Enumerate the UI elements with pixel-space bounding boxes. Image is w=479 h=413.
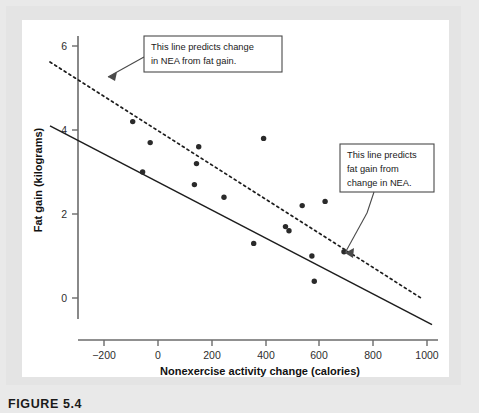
x-axis: −200 0 200 400 600 800 1000 (78, 340, 439, 361)
annotation-line: This line predicts change (151, 42, 254, 52)
data-point (286, 228, 291, 233)
x-tick-label: −200 (92, 349, 116, 361)
data-point (261, 136, 266, 141)
x-tick-label: 0 (155, 349, 161, 361)
annotation-line: This line predicts (347, 150, 417, 160)
x-tick-label: 600 (310, 349, 328, 361)
figure-caption: FIGURE 5.4 (8, 398, 308, 413)
y-tick-label: 2 (61, 208, 67, 220)
data-point (312, 279, 317, 284)
data-point (192, 182, 197, 187)
data-point (196, 144, 201, 149)
y-axis-title: Fat gain (kilograms) (32, 127, 44, 232)
data-point (140, 169, 145, 174)
figure-caption-text: FIGURE 5.4 (8, 398, 308, 411)
x-tick-label: 1000 (415, 349, 439, 361)
plot-card: 6 4 2 0 −200 0 200 400 600 800 10 (22, 20, 449, 377)
y-tick-label: 6 (61, 40, 67, 52)
x-tick-label: 400 (257, 349, 275, 361)
data-points (130, 119, 347, 284)
data-point (283, 224, 288, 229)
data-point (130, 119, 135, 124)
annotation-line: in NEA from fat gain. (151, 56, 236, 66)
annotation-line: change in NEA. (347, 178, 412, 188)
figure-container: 6 4 2 0 −200 0 200 400 600 800 10 (0, 0, 479, 413)
data-point (251, 241, 256, 246)
annotation-nea-from-fat-gain: This line predicts change in NEA from fa… (108, 36, 282, 81)
data-point (221, 195, 226, 200)
data-point (300, 203, 305, 208)
x-tick-label: 800 (364, 349, 382, 361)
scatter-chart: 6 4 2 0 −200 0 200 400 600 800 10 (22, 20, 449, 377)
x-axis-title: Nonexercise activity change (calories) (160, 365, 360, 377)
x-tick-label: 200 (203, 349, 221, 361)
data-point (194, 161, 199, 166)
data-point (148, 140, 153, 145)
data-point (309, 253, 314, 258)
data-point (322, 199, 327, 204)
y-tick-label: 0 (61, 292, 67, 304)
annotation-fat-gain-from-nea: This line predicts fat gain from change … (340, 144, 434, 258)
annotation-line: fat gain from (347, 164, 399, 174)
